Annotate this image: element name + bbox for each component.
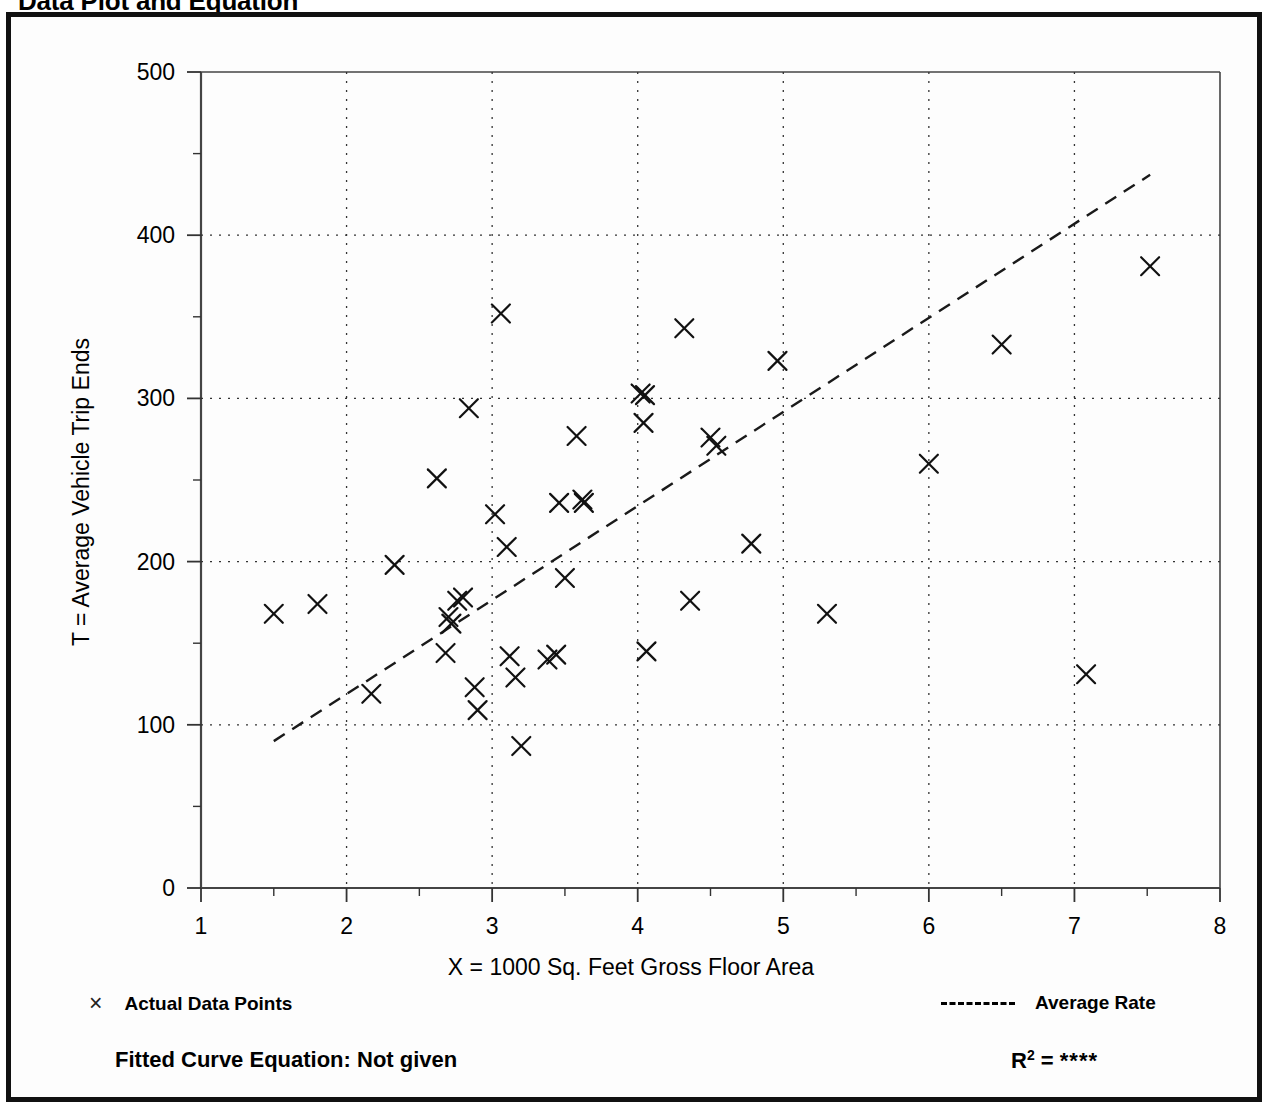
data-point-marker [1077, 665, 1095, 683]
dashed-line-icon [941, 1002, 1015, 1005]
y-tick-label: 300 [137, 385, 175, 411]
data-point-marker [506, 668, 524, 686]
y-tick-label: 0 [162, 875, 175, 901]
axis-ticks [187, 72, 1220, 902]
chart-footer: Fitted Curve Equation: Not given R2 = **… [11, 1045, 1267, 1085]
y-tick-label: 200 [137, 549, 175, 575]
y-tick-label: 400 [137, 222, 175, 248]
data-point-marker [573, 491, 591, 509]
data-point-marker [362, 685, 380, 703]
x-tick-label: 8 [1214, 913, 1227, 939]
r-exponent: 2 [1027, 1047, 1035, 1063]
data-point-marker [993, 336, 1011, 354]
figure-frame: 010020030040050012345678 X = 1000 Sq. Fe… [6, 12, 1262, 1102]
axis-tick-labels: 010020030040050012345678 [137, 59, 1227, 939]
data-point-marker [486, 505, 504, 523]
r-equals: = [1035, 1048, 1060, 1073]
data-point-marker [635, 414, 653, 432]
x-tick-label: 4 [631, 913, 644, 939]
data-point-marker [265, 605, 283, 623]
scatter-chart: 010020030040050012345678 X = 1000 Sq. Fe… [11, 17, 1267, 1107]
data-point-marker [308, 595, 326, 613]
average-rate-trend-line [274, 175, 1150, 741]
data-point-marker [460, 399, 478, 417]
data-point-marker [469, 701, 487, 719]
data-point-marker [681, 592, 699, 610]
data-point-marker [568, 427, 586, 445]
data-point-marker [742, 535, 760, 553]
x-tick-label: 2 [340, 913, 353, 939]
data-point-marker [512, 737, 530, 755]
data-point-marker [501, 647, 519, 665]
x-marker-icon: × [89, 992, 102, 1015]
data-point-marker [437, 644, 455, 662]
r-squared-value: R2 = **** [1011, 1047, 1098, 1074]
data-point-marker [466, 678, 484, 696]
y-tick-label: 100 [137, 712, 175, 738]
data-point-marker [428, 469, 446, 487]
x-tick-label: 6 [922, 913, 935, 939]
data-point-marker [547, 646, 565, 664]
x-tick-label: 3 [486, 913, 499, 939]
legend-label-actual-data-points: Actual Data Points [124, 993, 292, 1015]
data-point-marker [637, 642, 655, 660]
x-tick-label: 7 [1068, 913, 1081, 939]
legend-item-actual-data-points: × Actual Data Points [89, 992, 292, 1015]
data-point-marker [575, 494, 593, 512]
legend-label-average-rate: Average Rate [1035, 992, 1156, 1014]
fitted-curve-equation: Fitted Curve Equation: Not given [115, 1047, 457, 1073]
y-tick-label: 500 [137, 59, 175, 85]
data-point-marker [675, 319, 693, 337]
plot-frame [201, 72, 1220, 888]
data-point-marker [442, 615, 460, 633]
data-point-marker [707, 437, 725, 455]
x-tick-label: 5 [777, 913, 790, 939]
chart-legend: × Actual Data Points Average Rate [11, 992, 1267, 1032]
data-point-marker [550, 494, 568, 512]
x-axis-title: X = 1000 Sq. Feet Gross Floor Area [448, 954, 814, 980]
gridlines [201, 72, 1220, 888]
data-point-marker [498, 538, 516, 556]
r-symbol: R [1011, 1048, 1027, 1073]
data-point-marker [556, 569, 574, 587]
data-point-marker [1141, 257, 1159, 275]
data-point-markers [265, 257, 1159, 755]
data-point-marker [818, 605, 836, 623]
data-point-marker [454, 589, 472, 607]
legend-item-average-rate: Average Rate [941, 992, 1156, 1014]
y-axis-title: T = Average Vehicle Trip Ends [68, 338, 94, 646]
data-point-marker [386, 556, 404, 574]
data-point-marker [492, 305, 510, 323]
chart-canvas: 010020030040050012345678 X = 1000 Sq. Fe… [11, 17, 1267, 1107]
r-value: **** [1060, 1048, 1098, 1073]
x-tick-label: 1 [195, 913, 208, 939]
